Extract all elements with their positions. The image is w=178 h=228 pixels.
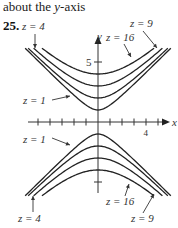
x-axis-label: x bbox=[171, 116, 177, 128]
level-curve-plot: 25. 45xy z = 4z = 9z = 16z = 1z = 1z = 4… bbox=[0, 0, 178, 228]
level-label: z = 4 bbox=[17, 212, 41, 224]
level-label: z = 9 bbox=[130, 212, 154, 224]
arrowhead-icon bbox=[31, 196, 35, 200]
x-axis-arrow-icon bbox=[162, 119, 170, 126]
level-label: z = 4 bbox=[21, 20, 45, 32]
level-label: z = 16 bbox=[105, 195, 135, 207]
y-axis-label: y bbox=[96, 30, 102, 42]
problem-number: 25. bbox=[3, 18, 19, 33]
y-tick-label: 5 bbox=[86, 56, 92, 68]
level-label: z = 1 bbox=[22, 94, 46, 106]
x-tick-label: 4 bbox=[144, 128, 149, 138]
level-label: z = 16 bbox=[105, 31, 135, 43]
level-label: z = 1 bbox=[22, 133, 46, 145]
level-label: z = 9 bbox=[129, 17, 153, 29]
arrowhead-icon bbox=[33, 44, 37, 48]
arrowhead-icon bbox=[126, 184, 130, 188]
arrowhead-icon bbox=[66, 95, 70, 99]
